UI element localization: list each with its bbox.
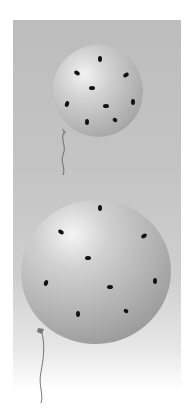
balloon-string [40,330,44,403]
balloon-knot [37,328,44,334]
balloon-knot [62,128,66,135]
balloon-string [62,132,64,175]
balloons-illustration [0,0,191,420]
small-balloon [46,38,151,175]
large-balloon [12,190,181,403]
